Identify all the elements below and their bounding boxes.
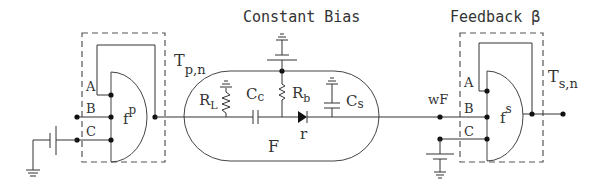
ground-icon xyxy=(276,34,288,40)
right-pin-c-dot xyxy=(484,136,489,141)
right-pin-a-dot xyxy=(484,88,489,93)
right-dashed-box xyxy=(460,33,543,162)
load-resistor-label: RL xyxy=(199,91,218,112)
left-function-block: A B C fp Tp,n xyxy=(74,33,206,162)
coupling-capacitor-label: Cc xyxy=(246,85,264,104)
right-function-block: wF A B C fs Ts,n xyxy=(426,33,578,178)
wf-label: wF xyxy=(428,92,448,107)
left-output-label: Tp,n xyxy=(174,51,206,77)
left-pin-b-dot xyxy=(108,114,113,119)
diode xyxy=(298,111,307,123)
left-pin-a-label: A xyxy=(85,79,96,94)
diode-label: r xyxy=(300,125,308,143)
left-pin-b-label: B xyxy=(86,101,96,116)
ground-icon xyxy=(326,78,338,84)
left-battery-source xyxy=(26,126,77,176)
right-function-label: fs xyxy=(500,102,512,127)
load-resistor xyxy=(220,81,232,117)
ground-icon xyxy=(220,81,232,87)
diode-triangle xyxy=(298,111,307,123)
feedback-title: Feedback β xyxy=(450,8,540,26)
shunt-capacitor xyxy=(324,78,340,117)
bias-resistor xyxy=(279,71,285,117)
right-pin-b-label: B xyxy=(464,101,474,116)
wf-node-dot xyxy=(437,114,442,119)
right-output-dot xyxy=(529,111,534,116)
top-bias-source xyxy=(267,34,297,71)
shunt-capacitor-label: Cs xyxy=(346,92,364,111)
constant-bias-block: RL Cc Rb xyxy=(184,34,460,161)
bias-resistor-label: Rb xyxy=(292,84,310,105)
right-output-label: Ts,n xyxy=(548,67,578,91)
coupling-capacitor xyxy=(253,110,258,124)
left-pin-c-dot xyxy=(108,137,113,142)
ground-icon xyxy=(26,170,40,176)
circuit-diagram: Constant Bias Feedback β A B C fp Tp,n xyxy=(0,0,604,187)
right-battery-source xyxy=(426,139,454,178)
left-pin-c-label: C xyxy=(86,124,96,139)
right-pin-a-label: A xyxy=(463,75,474,90)
right-pin-b-dot xyxy=(484,114,489,119)
left-dashed-box xyxy=(82,33,165,162)
left-gate-shape xyxy=(111,72,147,162)
ground-icon xyxy=(434,172,446,178)
left-function-label: fp xyxy=(123,103,137,128)
left-input-b-dot xyxy=(74,114,79,119)
block-f-label: F xyxy=(268,137,279,156)
right-pin-c-label: C xyxy=(464,124,474,139)
constant-bias-title: Constant Bias xyxy=(243,8,360,26)
left-pin-a-dot xyxy=(108,92,113,97)
right-terminal-dot xyxy=(560,111,565,116)
